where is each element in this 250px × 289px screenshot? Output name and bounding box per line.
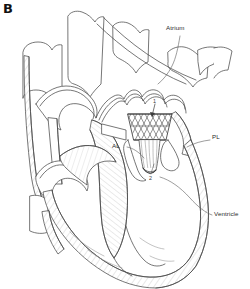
callout-one: 1 xyxy=(153,99,156,104)
figure-panel: B Atrium PL AL Ventricle 1 2 xyxy=(0,0,250,289)
panel-letter: B xyxy=(3,2,13,15)
label-posterior-leaflet: PL xyxy=(212,134,220,140)
vessel-outline-center xyxy=(68,11,104,97)
interventricular-septum xyxy=(90,120,128,258)
callout-two: 2 xyxy=(149,176,152,181)
heart-cross-section-diagram xyxy=(0,0,250,289)
posterior-leaflet-PL xyxy=(161,140,179,171)
vessel-outline-mid-upper xyxy=(113,22,149,73)
label-ventricle: Ventricle xyxy=(214,211,239,217)
label-anterior-leaflet: AL xyxy=(112,143,120,149)
label-atrium: Atrium xyxy=(166,25,184,31)
